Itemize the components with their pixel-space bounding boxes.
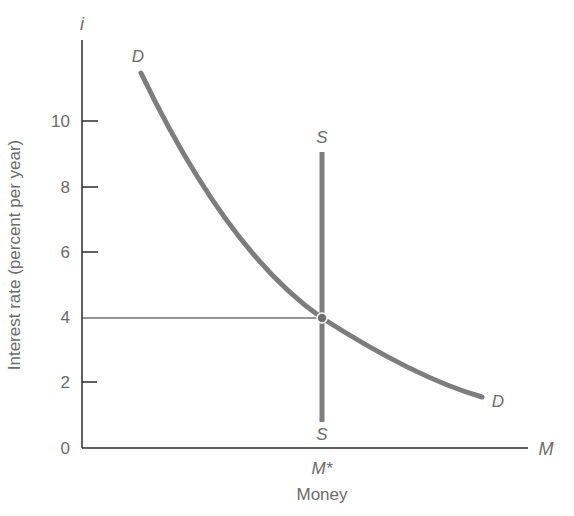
- y-tick-label-6: 6: [61, 243, 70, 262]
- axes: [82, 40, 528, 448]
- y-ticks: [82, 121, 98, 382]
- money-market-chart: 10 8 6 4 2 0 i M Interest rate (percent …: [0, 0, 574, 516]
- y-tick-label-8: 8: [61, 178, 70, 197]
- demand-label-bottom: D: [492, 392, 504, 411]
- demand-label-top: D: [132, 47, 144, 66]
- x-axis-title: Money: [296, 485, 348, 504]
- y-tick-labels: 10 8 6 4 2 0: [51, 112, 70, 458]
- demand-curve: [141, 73, 482, 397]
- y-tick-label-0: 0: [61, 439, 70, 458]
- y-tick-label-2: 2: [61, 373, 70, 392]
- y-axis-symbol: i: [80, 14, 85, 34]
- x-tick-label-mstar: M*: [312, 459, 334, 478]
- y-tick-label-4: 4: [61, 308, 70, 327]
- equilibrium-point: [317, 313, 327, 323]
- y-axis-title: Interest rate (percent per year): [5, 140, 24, 371]
- supply-label-bottom: S: [316, 425, 328, 444]
- x-axis-symbol: M: [539, 439, 554, 459]
- supply-label-top: S: [316, 128, 328, 147]
- y-tick-label-10: 10: [51, 112, 70, 131]
